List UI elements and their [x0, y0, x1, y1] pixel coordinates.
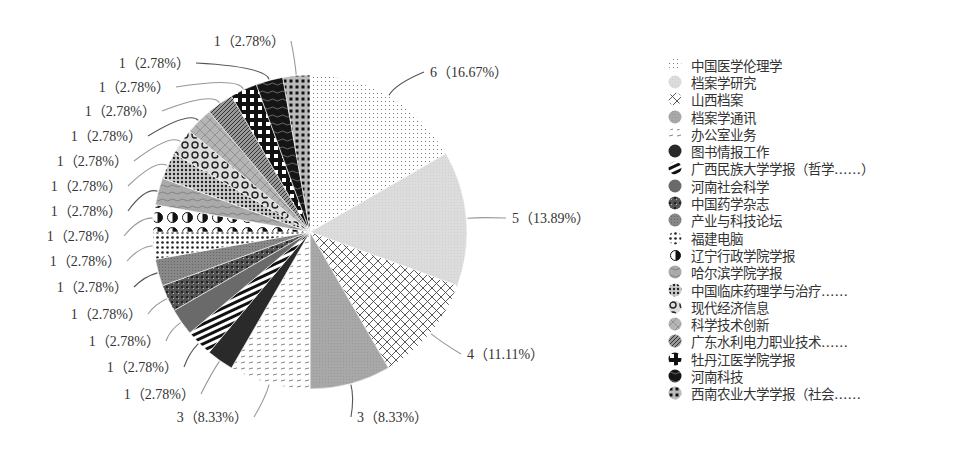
slice-value-label: 1（2.78%） [51, 179, 122, 194]
legend-item: 中国临床药理学与治疗…… [668, 281, 874, 298]
leader-line [291, 41, 296, 75]
leader-line [254, 385, 269, 417]
legend-swatch-icon [668, 196, 682, 210]
slice-value-label: 1（2.78%） [99, 80, 170, 95]
legend-item: 河南科技 [668, 367, 874, 384]
legend-swatch-icon [668, 369, 682, 383]
leader-line [127, 246, 153, 261]
legend-item: 现代经济信息 [668, 298, 874, 315]
leader-line [351, 385, 353, 417]
legend-swatch-icon [668, 92, 682, 106]
legend-item: 哈尔滨学院学报 [668, 264, 874, 281]
slice-value-label: 1（2.78%） [89, 334, 160, 349]
legend-swatch-icon [668, 386, 682, 400]
leader-line [166, 323, 181, 341]
leader-line [124, 218, 153, 236]
slice-value-label: 1（2.78%） [71, 129, 142, 144]
slice-value-label: 1（2.78%） [50, 254, 121, 269]
slice-value-label: 3（8.33%） [177, 410, 248, 425]
legend-item: 图书情报工作 [668, 142, 874, 159]
legend-item: 办公室业务 [668, 125, 874, 142]
legend-item: 河南社会科学 [668, 177, 874, 194]
legend-swatch-icon [668, 300, 682, 314]
slice-value-label: 1（2.78%） [47, 229, 118, 244]
legend-item: 辽宁行政学院学报 [668, 246, 874, 263]
slice-value-label: 1（2.78%） [124, 387, 195, 402]
legend-swatch-icon [668, 75, 682, 89]
slice-value-label: 3（8.33%） [357, 410, 428, 425]
leader-line [148, 299, 167, 314]
leader-line [162, 99, 219, 111]
legend-item: 产业与科技论坛 [668, 212, 874, 229]
legend-item: 广西民族大学学报（哲学……） [668, 160, 874, 177]
leader-line [196, 63, 269, 79]
leader-line [431, 334, 461, 354]
legend-swatch-icon [668, 144, 682, 158]
legend-swatch-icon [668, 127, 682, 141]
legend-item: 中国医学伦理学 [668, 56, 874, 73]
slice-value-label: 1（2.78%） [57, 154, 128, 169]
legend-swatch-icon [668, 265, 682, 279]
legend-item: 档案学研究 [668, 73, 874, 90]
slice-value-label: 6（16.67%） [430, 65, 508, 80]
leader-line [184, 344, 198, 367]
legend-item: 中国药学杂志 [668, 194, 874, 211]
slice-value-label: 4（11.11%） [467, 347, 544, 362]
legend-swatch-icon [668, 283, 682, 297]
legend-swatch-icon [668, 213, 682, 227]
legend-swatch-icon [668, 334, 682, 348]
slice-value-label: 5（13.89%） [512, 211, 590, 226]
legend-item: 西南农业大学学报（社会…… [668, 385, 874, 402]
legend-swatch-icon [668, 179, 682, 193]
pie-slices [153, 75, 467, 389]
legend-label: 西南农业大学学报（社会…… [691, 383, 861, 403]
leader-line [176, 82, 243, 88]
legend-swatch-icon [668, 352, 682, 366]
slice-value-label: 1（2.78%） [51, 204, 122, 219]
leader-line [389, 72, 424, 95]
legend-swatch-icon [668, 231, 682, 245]
legend-item: 山西档案 [668, 91, 874, 108]
legend-swatch-icon [668, 317, 682, 331]
legend-item: 广东水利电力职业技术…… [668, 333, 874, 350]
slice-value-label: 1（2.78%） [85, 104, 156, 119]
legend-swatch-icon [668, 161, 682, 175]
legend-item: 牡丹江医学院学报 [668, 350, 874, 367]
leader-line [128, 191, 157, 211]
slice-value-label: 1（2.78%） [107, 360, 178, 375]
legend-item: 科学技术创新 [668, 315, 874, 332]
legend-item: 福建电脑 [668, 229, 874, 246]
slice-value-label: 1（2.78%） [71, 307, 142, 322]
slice-value-label: 1（2.78%） [57, 280, 128, 295]
leader-line [467, 218, 506, 219]
slice-value-label: 1（2.78%） [119, 56, 190, 71]
legend-item: 档案学通讯 [668, 108, 874, 125]
legend-swatch-icon [668, 58, 682, 72]
chart-legend: 中国医学伦理学档案学研究山西档案档案学通讯办公室业务图书情报工作广西民族大学学报… [668, 56, 874, 402]
leader-line [201, 361, 219, 394]
legend-swatch-icon [668, 248, 682, 262]
leader-line [134, 273, 157, 287]
slice-value-label: 1（2.78%） [214, 34, 285, 49]
legend-swatch-icon [668, 110, 682, 124]
